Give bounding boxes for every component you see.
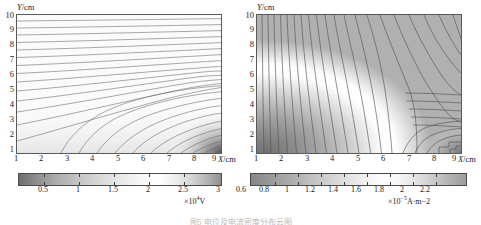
x-tick-left-4: 4 [86,154,98,162]
colorbar-unit-potential: ×104V [184,195,205,206]
y-tick-right-2: 2 [242,130,254,138]
x-tick-right-7: 7 [403,154,415,162]
x-tick-left-1: 1 [10,154,22,162]
y-tick-right-7: 7 [242,55,254,63]
colorbar-tick-left-0: 0.5 [33,186,53,194]
y-tick-left-9: 9 [2,25,14,33]
y-tick-left-3: 3 [2,115,14,123]
y-tick-left-5: 5 [2,85,14,93]
panel-potential: Y/cm 10 9 8 7 6 5 4 3 2 1 [0,0,240,210]
plot-area-current-density [256,14,462,154]
x-tick-left-6: 6 [137,154,149,162]
x-tick-left-7: 7 [163,154,175,162]
x-tick-right-6: 6 [377,154,389,162]
y-tick-right-1: 1 [242,145,254,153]
y-tick-left-6: 6 [2,70,14,78]
colorbar-tick-left-5: 3 [208,186,228,194]
colorbar-tick-right-4: 1.4 [323,186,343,194]
y-tick-right-10: 10 [242,11,254,19]
figure-caption: 图5 电位及电流密度分布云图 [0,216,481,225]
y-tick-right-4: 4 [242,100,254,108]
colorbar-potential [18,173,222,186]
y-tick-left-8: 8 [2,40,14,48]
colorbar-tick-right-2: 1 [277,186,297,194]
y-tick-left-4: 4 [2,100,14,108]
y-tick-right-6: 6 [242,70,254,78]
y-tick-left-1: 1 [2,145,14,153]
y-tick-right-3: 3 [242,115,254,123]
colorbar-tick-right-8: 2.2 [415,186,435,194]
contour-field-potential [17,15,221,153]
x-tick-right-1: 1 [250,154,262,162]
x-tick-right-5: 5 [352,154,364,162]
x-tick-right-4: 4 [326,154,338,162]
colorbar-tick-left-3: 2 [138,186,158,194]
panel-current-density: Y/cm 10 9 8 7 6 5 4 3 2 1 [240,0,481,210]
colorbar-unit-current-density: ×10−5A·m−2 [388,195,430,206]
x-axis-label-right: X/cm [458,154,476,164]
x-tick-right-3: 3 [301,154,313,162]
figure-container: Y/cm 10 9 8 7 6 5 4 3 2 1 [0,0,481,225]
y-axis-label-left: Y/cm [17,2,34,12]
contour-field-current-density [257,15,461,153]
colorbar-tick-right-6: 1.8 [369,186,389,194]
y-axis-label-right: Y/cm [257,2,274,12]
colorbar-tick-left-2: 1.5 [103,186,123,194]
colorbar-tick-right-7: 2 [392,186,412,194]
x-tick-left-2: 2 [35,154,47,162]
x-tick-left-3: 3 [61,154,73,162]
x-tick-left-5: 5 [112,154,124,162]
colorbar-tick-right-3: 1.2 [300,186,320,194]
y-tick-left-2: 2 [2,130,14,138]
colorbar-tick-right-0: 0.6 [231,186,251,194]
colorbar-tick-left-4: 2.5 [173,186,193,194]
y-tick-right-9: 9 [242,25,254,33]
colorbar-tick-right-1: 0.8 [254,186,274,194]
colorbar-tick-left-1: 1 [68,186,88,194]
x-tick-right-8: 8 [428,154,440,162]
y-tick-right-8: 8 [242,40,254,48]
x-axis-label-left: X/cm [218,154,236,164]
colorbar-gradient-potential [19,174,221,185]
colorbar-tick-right-5: 1.6 [346,186,366,194]
y-tick-left-10: 10 [2,11,14,19]
plot-area-potential [16,14,222,154]
y-tick-right-5: 5 [242,85,254,93]
x-tick-right-2: 2 [275,154,287,162]
x-tick-left-8: 8 [188,154,200,162]
colorbar-gradient-current-density [251,174,466,185]
y-tick-left-7: 7 [2,55,14,63]
